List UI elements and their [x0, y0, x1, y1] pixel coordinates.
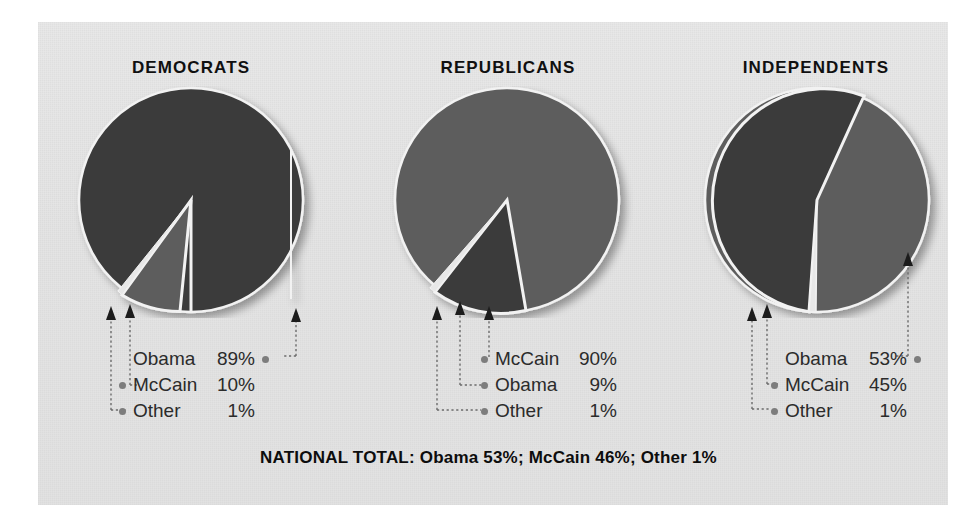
legend-dot [481, 408, 488, 415]
pie-democrats-svg [62, 86, 320, 318]
legend-dot [481, 382, 488, 389]
legend-label-value: 1% [857, 400, 907, 422]
chart-title-democrats: DEMOCRATS [91, 58, 291, 78]
legend-democrats: Obama 89% McCain 10% Other 1% [133, 346, 269, 424]
legend-label-name: McCain [495, 348, 567, 370]
legend-row-obama: Obama 53% [785, 346, 921, 372]
legend-row-mccain: McCain 45% [771, 372, 921, 398]
legend-label-value: 10% [205, 374, 255, 396]
legend-dot [771, 408, 778, 415]
legend-row-obama: Obama 89% [133, 346, 269, 372]
legend-dot [119, 408, 126, 415]
pie-chart-democrats [62, 86, 320, 318]
legend-independents: Obama 53% McCain 45% Other 1% [785, 346, 921, 424]
chart-title-republicans: REPUBLICANS [408, 58, 608, 78]
legend-label-value: 1% [567, 400, 617, 422]
legend-label-name: Other [495, 400, 567, 422]
pie-chart-independents [688, 86, 946, 318]
legend-label-value: 89% [205, 348, 255, 370]
legend-dot [914, 356, 921, 363]
legend-row-mccain: McCain 10% [119, 372, 269, 398]
legend-row-other: Other 1% [481, 398, 617, 424]
legend-row-other: Other 1% [771, 398, 921, 424]
legend-row-obama: Obama 9% [481, 372, 617, 398]
legend-row-mccain: McCain 90% [481, 346, 617, 372]
legend-label-value: 1% [205, 400, 255, 422]
legend-label-value: 53% [857, 348, 907, 370]
legend-label-name: Obama [495, 374, 567, 396]
legend-label-value: 9% [567, 374, 617, 396]
legend-label-name: Other [133, 400, 205, 422]
legend-label-name: McCain [133, 374, 205, 396]
legend-row-other: Other 1% [119, 398, 269, 424]
pie-independents-svg [688, 86, 946, 318]
legend-label-name: Obama [785, 348, 857, 370]
legend-label-name: McCain [785, 374, 857, 396]
legend-republicans: McCain 90% Obama 9% Other 1% [481, 346, 617, 424]
legend-label-name: Other [785, 400, 857, 422]
legend-label-value: 45% [857, 374, 907, 396]
infographic-figure: DEMOCRATS REPUBLICANS INDEPENDENTS [0, 0, 977, 528]
legend-label-value: 90% [567, 348, 617, 370]
legend-dot [771, 382, 778, 389]
national-total-footer: NATIONAL TOTAL: Obama 53%; McCain 46%; O… [0, 448, 977, 468]
pie-republicans-svg [378, 86, 636, 318]
legend-dot [119, 382, 126, 389]
chart-title-independents: INDEPENDENTS [716, 58, 916, 78]
pie-chart-republicans [378, 86, 636, 318]
legend-label-name: Obama [133, 348, 205, 370]
legend-dot [481, 356, 488, 363]
legend-dot [262, 356, 269, 363]
